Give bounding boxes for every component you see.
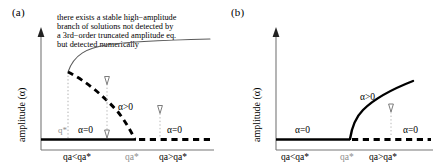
panel-b-region-label-positive: α>0 [360, 92, 375, 102]
panel-a: (a) amplitude (α) there exists a stable … [0, 0, 222, 167]
panel-b-down-arrow-right [389, 104, 394, 137]
panel-a-region-label-positive: α>0 [118, 102, 133, 112]
panel-a-x-tick-critical: qa* [125, 152, 139, 162]
panel-a-x-tick-right: qa>qa* [159, 152, 187, 162]
panel-b-plot [223, 0, 445, 167]
bifurcation-figure: (a) amplitude (α) there exists a stable … [0, 0, 445, 167]
panel-b-region-label-zero-right: α=0 [403, 125, 418, 135]
panel-a-numeric-branch [68, 39, 210, 72]
panel-a-plot [0, 0, 222, 167]
panel-a-x-tick-left: qa<qa* [63, 152, 91, 162]
panel-a-down-arrow-lower-left [105, 103, 110, 138]
panel-b-y-axis [273, 27, 280, 150]
panel-a-region-label-zero-left: α=0 [78, 125, 93, 135]
panel-a-down-arrow-right [158, 106, 163, 139]
panel-b-x-tick-right: qa>qa* [369, 152, 397, 162]
panel-b-region-label-zero-left: α=0 [295, 125, 310, 135]
panel-b: (b) amplitude (α) α=0 α>0 [223, 0, 445, 167]
panel-b-x-tick-critical: qa* [340, 152, 354, 162]
panel-b-x-tick-left: qa<qa* [281, 152, 309, 162]
panel-a-region-label-zero-right: α=0 [167, 125, 182, 135]
panel-a-fold-point-label: q* [58, 125, 67, 135]
panel-a-y-axis [38, 27, 45, 150]
